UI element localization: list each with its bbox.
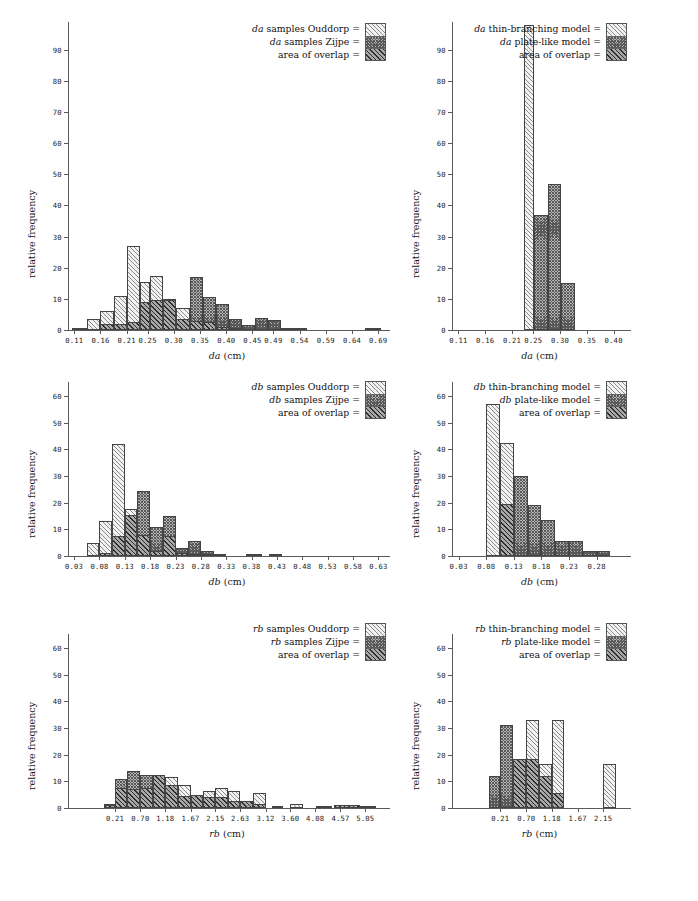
y-tick: [64, 503, 68, 504]
x-axis-title: rb (cm): [209, 828, 244, 839]
bar-overlap: [163, 300, 176, 330]
x-tick: [300, 330, 301, 334]
x-tick-label: 0.23: [166, 562, 184, 571]
y-tick-label: 20: [53, 498, 62, 507]
y-tick-label: 50: [53, 670, 62, 679]
bar-light: [524, 25, 535, 330]
x-tick: [200, 330, 201, 334]
bar-dark: [555, 541, 569, 556]
bar-overlap: [228, 801, 240, 808]
legend-labels: db thin-branching model =db plate-like m…: [474, 380, 601, 420]
bar-overlap: [190, 321, 203, 330]
y-tick: [448, 299, 452, 300]
x-tick: [150, 556, 151, 560]
x-tick-label: 0.53: [319, 562, 337, 571]
y-axis-title: relative frequency: [410, 190, 421, 278]
x-tick: [326, 330, 327, 334]
y-tick-label: 40: [53, 697, 62, 706]
x-tick: [486, 556, 487, 560]
bar-overlap: [269, 554, 282, 556]
y-tick-label: 60: [53, 644, 62, 653]
y-tick: [64, 648, 68, 649]
x-tick-label: 0.40: [605, 336, 623, 345]
legend-label: rb thin-branching model =: [475, 622, 601, 635]
bar-dark: [514, 476, 528, 556]
x-tick-label: 0.69: [369, 336, 387, 345]
x-tick: [587, 330, 588, 334]
bar-overlap: [137, 535, 150, 556]
x-axis-title: db (cm): [521, 576, 558, 587]
y-tick-label: 30: [53, 232, 62, 241]
y-tick: [448, 529, 452, 530]
bar-overlap: [115, 788, 127, 808]
bar-dark: [242, 325, 255, 330]
bar-overlap: [365, 328, 381, 330]
x-tick: [353, 556, 354, 560]
x-tick: [201, 556, 202, 560]
y-tick: [64, 396, 68, 397]
bar-overlap: [127, 789, 140, 808]
x-tick-label: 0.48: [293, 562, 311, 571]
legend-label: db thin-branching model =: [474, 380, 601, 393]
bar-dark: [541, 520, 555, 556]
bar-overlap: [163, 536, 176, 556]
x-tick: [127, 330, 128, 334]
y-tick: [64, 205, 68, 206]
y-tick: [64, 728, 68, 729]
legend-swatch-overlap: [607, 48, 626, 60]
legend-swatch-dark: [607, 636, 626, 648]
x-tick: [226, 556, 227, 560]
x-tick-label: 2.15: [594, 814, 612, 823]
y-tick-label: 0: [441, 804, 446, 813]
y-tick-label: 80: [437, 76, 446, 85]
x-tick: [140, 808, 141, 812]
bar-overlap: [104, 805, 115, 808]
x-tick-label: 0.21: [106, 814, 124, 823]
y-tick: [448, 701, 452, 702]
y-tick: [448, 755, 452, 756]
y-tick-label: 20: [53, 750, 62, 759]
y-axis: [68, 22, 69, 330]
panel-rb-models: 01020304050600.210.701.181.672.15relativ…: [452, 640, 627, 808]
y-tick-label: 40: [53, 445, 62, 454]
x-tick-label: 0.43: [268, 562, 286, 571]
bar-dark: [214, 554, 227, 556]
x-tick: [500, 808, 501, 812]
y-tick-label: 20: [437, 263, 446, 272]
y-tick-label: 30: [437, 724, 446, 733]
x-tick: [277, 556, 278, 560]
x-tick: [340, 808, 341, 812]
bar-overlap: [165, 785, 177, 808]
x-tick-label: 0.03: [450, 562, 468, 571]
bar-dark: [294, 328, 307, 330]
x-tick: [458, 330, 459, 334]
legend-label: db samples Zijpe =: [252, 393, 360, 406]
y-tick: [64, 423, 68, 424]
x-tick-label: 0.40: [217, 336, 235, 345]
y-axis: [452, 382, 453, 556]
legend-swatches: [606, 23, 627, 61]
x-axis-title: da (cm): [521, 350, 558, 361]
y-tick-label: 60: [53, 392, 62, 401]
x-tick-label: 0.45: [243, 336, 261, 345]
x-tick: [215, 808, 216, 812]
y-tick-label: 0: [57, 804, 62, 813]
y-tick: [64, 529, 68, 530]
legend-label: da samples Ouddorp =: [252, 22, 360, 35]
y-tick-label: 50: [437, 670, 446, 679]
x-tick: [365, 808, 366, 812]
x-axis-title: da (cm): [209, 350, 246, 361]
bar-dark: [281, 328, 294, 330]
x-tick-label: 0.30: [551, 336, 569, 345]
x-tick: [115, 808, 116, 812]
y-tick: [64, 268, 68, 269]
y-axis-title: relative frequency: [26, 190, 37, 278]
x-tick-label: 0.16: [91, 336, 109, 345]
legend-swatch-overlap: [366, 48, 385, 60]
x-tick-label: 0.11: [449, 336, 467, 345]
x-tick: [352, 330, 353, 334]
bar-overlap: [153, 775, 165, 808]
y-axis-title: relative frequency: [26, 702, 37, 790]
x-tick-label: 0.13: [116, 562, 134, 571]
x-tick-label: 0.35: [191, 336, 209, 345]
